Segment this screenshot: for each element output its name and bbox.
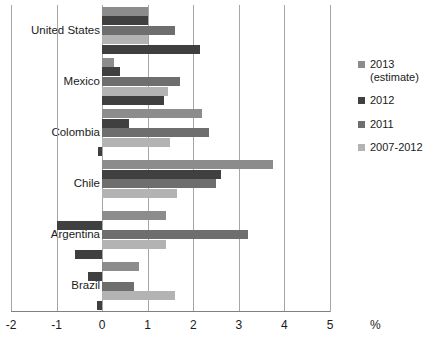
bar [102,67,120,76]
legend-swatch-icon [358,144,365,151]
legend-swatch-icon [358,61,365,68]
x-tick-label: 1 [144,318,151,332]
bar [102,35,148,44]
bar [102,87,168,96]
x-tick-label: 2 [190,318,197,332]
bar-chart: United StatesMexicoColombiaChileArgentin… [0,0,437,355]
x-tick-label: 3 [236,318,243,332]
legend-label: 2011 [370,118,394,131]
bar [102,138,170,147]
bar [102,189,177,198]
bar [102,7,148,16]
bar [102,58,113,67]
bar [102,230,248,239]
gridline-5 [330,5,331,312]
legend-label: 2007-2012 [370,141,423,154]
legend-item[interactable]: 2013 (estimate) [358,58,436,83]
bar [102,240,166,249]
bar [102,16,148,25]
bar [102,291,175,300]
plot-area [11,5,330,312]
bar [102,109,202,118]
gridline-neg1 [57,5,58,312]
bar [102,96,164,105]
bar [102,160,273,169]
x-tick-label: 0 [99,318,106,332]
bar [75,250,102,259]
bar [102,26,175,35]
bar [97,301,102,310]
bar [102,262,138,271]
gridline-3 [239,5,240,312]
bar [102,45,200,54]
gridline-neg2 [11,5,12,312]
bar [102,77,179,86]
gridline-4 [284,5,285,312]
bar [102,119,129,128]
bar [88,272,102,281]
bar [102,211,166,220]
bar [57,221,103,230]
x-tick-label: 4 [281,318,288,332]
x-tick-label: -1 [51,318,62,332]
bar [102,128,209,137]
x-axis-line [11,311,330,312]
legend-item[interactable]: 2012 [358,94,436,107]
legend-swatch-icon [358,121,365,128]
chart-legend: 2013 (estimate)201220112007-2012 [358,58,436,165]
legend-item[interactable]: 2011 [358,118,436,131]
bar [98,147,103,156]
x-tick-label: 5 [327,318,334,332]
x-axis-tick-labels: -2-1012345 [11,318,330,336]
legend-item[interactable]: 2007-2012 [358,141,436,154]
bar [102,179,216,188]
x-tick-label: -2 [6,318,17,332]
x-axis-unit-label: % [370,318,381,332]
legend-label: 2013 (estimate) [370,58,419,83]
bar [102,282,134,291]
legend-label: 2012 [370,94,394,107]
bar [102,170,220,179]
legend-swatch-icon [358,97,365,104]
